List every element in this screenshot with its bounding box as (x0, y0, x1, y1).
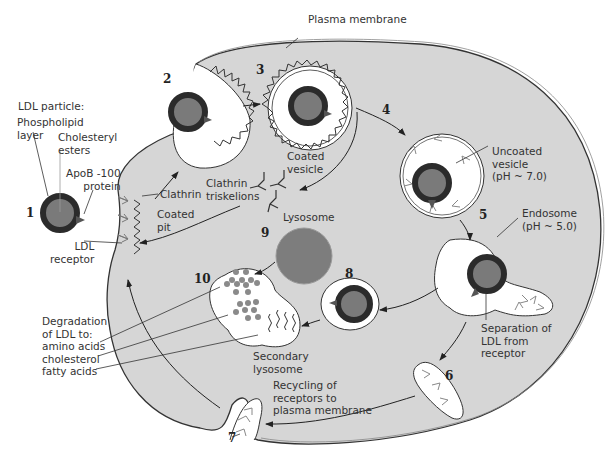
endosome-label: Endosome (pH ~ 5.0) (522, 207, 577, 232)
coated-vesicle-label: Coated vesicle (287, 150, 324, 175)
step-9: 9 (261, 226, 269, 240)
step-6: 6 (445, 369, 453, 383)
ldl-particle-step3 (291, 89, 325, 123)
step-4: 4 (382, 103, 390, 117)
step-2: 2 (163, 72, 171, 86)
lysosome-label: Lysosome (283, 211, 335, 224)
ldl-particle-heading: LDL particle: (18, 100, 84, 113)
step-1: 1 (26, 206, 34, 220)
step-7: 7 (228, 431, 236, 445)
recycling-label: Recycling of receptors to plasma membran… (273, 379, 372, 417)
uncoated-vesicle-label: Uncoated vesicle (pH ~ 7.0) (492, 145, 547, 183)
ldl-particle-step2 (171, 95, 205, 129)
cholesteryl-esters-label: Cholesteryl esters (58, 131, 117, 156)
clathrin-label: Clathrin (160, 188, 201, 201)
lysosome (276, 228, 332, 284)
fatty-acids-label: fatty acids (42, 365, 107, 378)
apob-protein-label: ApoB -100 protein (66, 167, 121, 192)
step-5: 5 (479, 208, 487, 222)
cholesterol-label: cholesterol (42, 353, 107, 366)
ldl-particle-step8 (338, 288, 370, 320)
secondary-lysosome-label: Secondary lysosome (253, 350, 309, 375)
step-10: 10 (194, 272, 211, 286)
degradation-label: Degradation of LDL to: amino acids chole… (42, 315, 107, 378)
amino-acids-label: amino acids (42, 340, 107, 353)
ldl-receptor-label: LDL receptor (50, 240, 94, 265)
step-8: 8 (345, 267, 353, 281)
clathrin-triskelions-label: Clathrin triskelions (206, 177, 259, 202)
plasma-membrane-label: Plasma membrane (308, 13, 407, 26)
ldl-particle-step4 (415, 166, 449, 200)
separation-label: Separation of LDL from receptor (481, 322, 552, 360)
step-3: 3 (256, 63, 264, 77)
coated-pit-label: Coated pit (157, 208, 194, 233)
ldl-particle-step5 (470, 257, 504, 291)
